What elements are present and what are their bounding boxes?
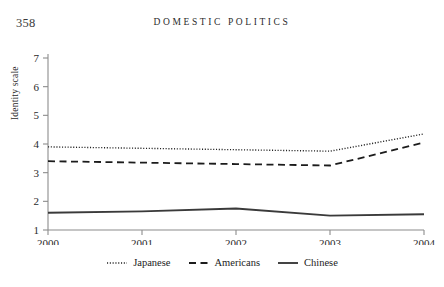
legend-swatch-dashed — [188, 259, 210, 267]
y-tick-label: 5 — [34, 109, 40, 121]
x-tick-label: 2001 — [131, 237, 153, 245]
y-tick-label: 6 — [34, 81, 40, 93]
series-line-americans — [48, 143, 424, 166]
line-chart: 1234567 20002001200220032004 — [0, 40, 444, 245]
legend-label: Japanese — [133, 258, 170, 269]
y-axis-ticks: 1234567 — [34, 52, 49, 236]
legend-item-chinese[interactable]: Chinese — [277, 258, 338, 269]
y-tick-label: 3 — [34, 167, 40, 179]
running-head: DOMESTIC POLITICS — [0, 17, 444, 27]
chart-svg: 1234567 20002001200220032004 — [0, 40, 444, 245]
legend-swatch-solid — [277, 259, 299, 267]
x-tick-label: 2002 — [225, 237, 247, 245]
y-tick-label: 7 — [34, 52, 40, 64]
series-line-japanese — [48, 134, 424, 151]
y-axis-label: Identity scale — [10, 0, 20, 120]
x-tick-label: 2000 — [37, 237, 60, 245]
y-tick-label: 2 — [34, 195, 40, 207]
x-axis-ticks: 20002001200220032004 — [37, 230, 436, 245]
x-tick-label: 2003 — [319, 237, 342, 245]
y-tick-label: 4 — [34, 138, 40, 150]
series-line-chinese — [48, 209, 424, 216]
chart-legend: JapaneseAmericansChinese — [0, 258, 444, 269]
y-tick-label: 1 — [34, 224, 40, 236]
legend-item-americans[interactable]: Americans — [188, 258, 260, 269]
legend-swatch-dotted — [106, 259, 128, 267]
data-series-group — [48, 134, 424, 216]
legend-label: Americans — [215, 258, 260, 269]
figure-page: 358 DOMESTIC POLITICS 1234567 2000200120… — [0, 0, 444, 287]
legend-item-japanese[interactable]: Japanese — [106, 258, 170, 269]
legend-label: Chinese — [304, 258, 338, 269]
x-tick-label: 2004 — [413, 237, 436, 245]
